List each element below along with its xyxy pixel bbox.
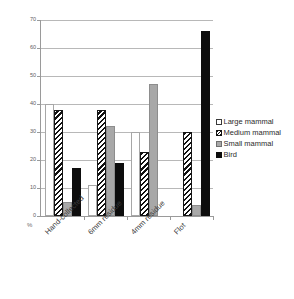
bar-group [41, 20, 84, 216]
legend-swatch-bird [216, 152, 222, 158]
bar-bird [201, 31, 210, 216]
y-axis-tick [37, 216, 41, 217]
bar-large [45, 104, 54, 216]
bar-group [84, 20, 127, 216]
x-axis-category-label: Flot [172, 221, 187, 236]
bar-group [127, 20, 170, 216]
x-axis-tick [127, 216, 128, 220]
bar-medium [54, 110, 63, 216]
legend-label: Large mammal [224, 118, 274, 126]
plot-area [40, 20, 213, 217]
x-axis-tick [84, 216, 85, 220]
legend-label: Small mammal [224, 140, 274, 148]
bar-small [149, 84, 158, 216]
bar-medium [140, 152, 149, 216]
legend-item-large: Large mammal [216, 118, 281, 126]
legend-swatch-small [216, 141, 222, 147]
legend-item-bird: Bird [216, 151, 281, 159]
bar-large [131, 132, 140, 216]
legend-item-medium: Medium mammal [216, 129, 281, 137]
y-axis-tick-label: 30 [12, 129, 36, 135]
y-axis-tick-label: 60 [12, 45, 36, 51]
y-axis-label: % [27, 222, 32, 228]
y-axis-tick-label: 40 [12, 101, 36, 107]
legend: Large mammalMedium mammalSmall mammalBir… [216, 118, 281, 159]
legend-swatch-large [216, 119, 222, 125]
legend-label: Medium mammal [224, 129, 282, 137]
legend-item-small: Small mammal [216, 140, 281, 148]
y-axis-tick-label: 50 [12, 73, 36, 79]
y-axis-tick-label: 10 [12, 185, 36, 191]
bar-medium [97, 110, 106, 216]
bar-large [88, 185, 97, 216]
bar-small [192, 205, 201, 216]
legend-label: Bird [224, 151, 237, 159]
bar-chart: 010203040506070 % Hand-collected6mm resi… [0, 0, 294, 299]
bar-group [170, 20, 213, 216]
y-axis-tick-label: 70 [12, 17, 36, 23]
bar-medium [183, 132, 192, 216]
x-axis-tick [170, 216, 171, 220]
legend-swatch-medium [216, 130, 222, 136]
y-axis-tick-label: 0 [12, 213, 36, 219]
x-axis-tick [213, 216, 214, 220]
y-axis-tick-label: 20 [12, 157, 36, 163]
